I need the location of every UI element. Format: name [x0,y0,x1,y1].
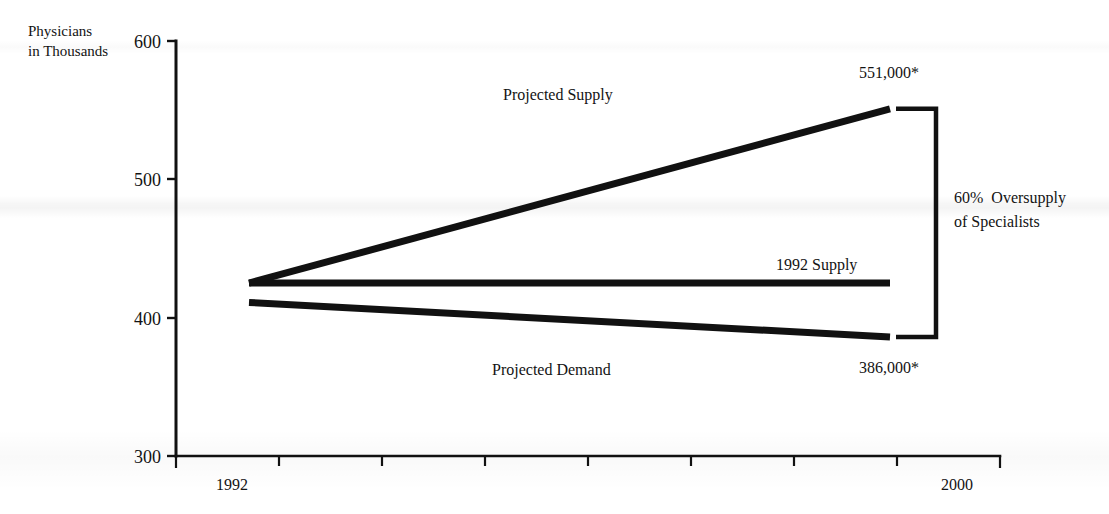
value-label-demand-2000: 386,000* [859,358,919,378]
oversupply-annotation-line1: 60% Oversupply [954,186,1066,210]
chart-plot-area [0,0,1109,514]
value-label-supply-2000: 551,000* [859,63,919,83]
series-label-1992-supply: 1992 Supply [776,255,857,275]
y-tick-label-500: 500 [105,169,161,192]
series-line-projected-demand [249,302,890,337]
y-axis-title-line2: in Thousands [28,42,108,61]
series-label-projected-demand: Projected Demand [492,360,611,380]
y-tick-label-400: 400 [105,308,161,331]
x-axis-ticks [176,456,1000,468]
y-tick-label-600: 600 [105,31,161,54]
x-tick-label-2000: 2000 [912,475,1002,495]
y-tick-label-300: 300 [105,446,161,469]
physician-supply-demand-chart: Physicians in Thousands 600 500 400 300 … [0,0,1109,514]
x-tick-label-1992: 1992 [187,475,277,495]
oversupply-bracket [896,109,936,337]
y-axis-title-line1: Physicians [28,22,92,41]
series-label-projected-supply: Projected Supply [503,85,613,105]
oversupply-annotation-line2: of Specialists [954,210,1040,234]
